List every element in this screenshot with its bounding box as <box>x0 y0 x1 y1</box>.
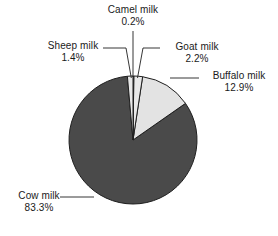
pie-label-buffalo-milk-value: 12.9% <box>202 82 276 94</box>
pie-label-buffalo-milk: Buffalo milk 12.9% <box>202 70 276 93</box>
pie-label-cow-milk-value: 83.3% <box>6 202 72 214</box>
leader-line-goat-milk <box>138 48 161 78</box>
pie-label-sheep-milk-name: Sheep milk <box>36 40 110 52</box>
pie-label-cow-milk: Cow milk 83.3% <box>6 190 72 213</box>
pie-label-sheep-milk: Sheep milk 1.4% <box>36 40 110 63</box>
pie-label-goat-milk: Goat milk 2.2% <box>164 41 230 64</box>
pie-label-sheep-milk-value: 1.4% <box>36 52 110 64</box>
pie-label-camel-milk: Camel milk 0.2% <box>97 4 169 27</box>
pie-chart: Camel milk 0.2% Sheep milk 1.4% Goat mil… <box>0 0 278 236</box>
pie-label-goat-milk-value: 2.2% <box>164 53 230 65</box>
pie-label-camel-milk-value: 0.2% <box>97 16 169 28</box>
pie-label-camel-milk-name: Camel milk <box>97 4 169 16</box>
pie-label-goat-milk-name: Goat milk <box>164 41 230 53</box>
pie-label-buffalo-milk-name: Buffalo milk <box>202 70 276 82</box>
pie-label-cow-milk-name: Cow milk <box>6 190 72 202</box>
